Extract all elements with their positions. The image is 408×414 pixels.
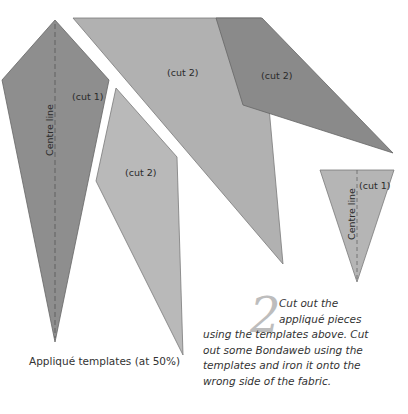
large-triangle-label: (cut 2) (167, 67, 198, 78)
instruction-line: Cut out the (203, 296, 408, 312)
template-left-kite (2, 20, 109, 342)
middle-diamond-label: (cut 2) (125, 167, 156, 178)
templates-caption: Appliqué templates (at 50%) (29, 355, 180, 367)
left-kite-centre-line-label: Centre line (44, 104, 55, 156)
instruction-line: templates and iron it onto the (203, 358, 408, 374)
instruction-line: out some Bondaweb using the (203, 343, 408, 359)
dark-quad-label: (cut 2) (261, 70, 292, 81)
instruction-line: appliqué pieces (203, 312, 408, 328)
instruction-line: wrong side of the fabric. (203, 374, 408, 390)
step-instruction: Cut out the appliqué pieces using the te… (203, 296, 408, 389)
small-triangle-label: (cut 1) (359, 180, 390, 191)
small-triangle-centre-line-label: Centre line (346, 188, 357, 240)
left-kite-label: (cut 1) (72, 91, 103, 102)
instruction-line: using the templates above. Cut (203, 327, 408, 343)
